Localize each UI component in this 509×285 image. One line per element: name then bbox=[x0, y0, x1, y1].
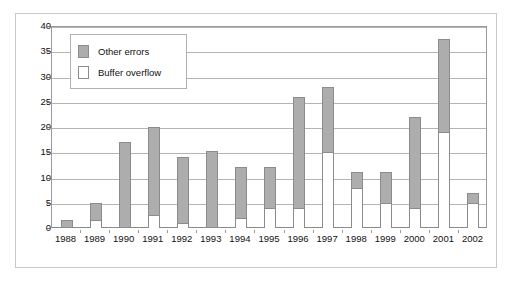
bar-segment-buffer-overflow[interactable] bbox=[380, 203, 392, 228]
bar-segment-buffer-overflow[interactable] bbox=[293, 208, 305, 228]
bar-column[interactable] bbox=[206, 151, 218, 228]
chart-figure: 0510152025303540 19881989199019911992199… bbox=[0, 0, 509, 285]
gray-swatch bbox=[78, 45, 89, 58]
bar-segment-buffer-overflow[interactable] bbox=[90, 220, 102, 228]
bar-column[interactable] bbox=[90, 203, 102, 228]
bar-segment-buffer-overflow[interactable] bbox=[235, 218, 247, 228]
x-tick-label: 2002 bbox=[458, 233, 487, 244]
x-tick-label: 1998 bbox=[342, 233, 371, 244]
x-tick-label: 1991 bbox=[138, 233, 167, 244]
x-tick-label: 1997 bbox=[313, 233, 342, 244]
white-swatch bbox=[78, 66, 89, 79]
x-tick-label: 1996 bbox=[284, 233, 313, 244]
x-tick-label: 2001 bbox=[429, 233, 458, 244]
bar-segment-buffer-overflow[interactable] bbox=[148, 215, 160, 228]
y-axis: 0510152025303540 bbox=[0, 26, 51, 228]
bar-column[interactable] bbox=[264, 167, 276, 228]
bar-segment-other-errors[interactable] bbox=[351, 172, 363, 187]
legend-item[interactable]: Buffer overflow bbox=[78, 62, 179, 83]
legend-label: Other errors bbox=[98, 46, 149, 57]
bar-column[interactable] bbox=[119, 142, 131, 228]
bar-segment-other-errors[interactable] bbox=[438, 39, 450, 132]
bar-segment-other-errors[interactable] bbox=[322, 87, 334, 153]
bar-segment-other-errors[interactable] bbox=[119, 142, 131, 228]
bar-column[interactable] bbox=[177, 157, 189, 228]
x-tick-label: 1989 bbox=[80, 233, 109, 244]
bar-segment-other-errors[interactable] bbox=[380, 172, 392, 202]
bar-column[interactable] bbox=[380, 172, 392, 228]
bar-segment-buffer-overflow[interactable] bbox=[467, 203, 479, 228]
y-tick-label: 25 bbox=[7, 97, 51, 107]
x-tick-label: 1999 bbox=[371, 233, 400, 244]
y-tick-label: 5 bbox=[7, 198, 51, 208]
bar-segment-buffer-overflow[interactable] bbox=[264, 208, 276, 228]
bar-column[interactable] bbox=[148, 127, 160, 228]
bar-column[interactable] bbox=[438, 39, 450, 228]
bar-segment-other-errors[interactable] bbox=[90, 203, 102, 221]
y-tick-label: 0 bbox=[7, 223, 51, 233]
bar-segment-other-errors[interactable] bbox=[467, 193, 479, 203]
bar-segment-other-errors[interactable] bbox=[177, 157, 189, 223]
bar-segment-buffer-overflow[interactable] bbox=[322, 152, 334, 228]
y-tick-mark bbox=[47, 228, 51, 229]
bar-segment-buffer-overflow[interactable] bbox=[438, 132, 450, 228]
x-tick-label: 1992 bbox=[167, 233, 196, 244]
gridline bbox=[52, 103, 486, 104]
y-tick-label: 15 bbox=[7, 147, 51, 157]
x-axis: 1988198919901991199219931994199519961997… bbox=[51, 230, 487, 252]
y-tick-label: 10 bbox=[7, 173, 51, 183]
bar-column[interactable] bbox=[61, 220, 73, 228]
bar-column[interactable] bbox=[467, 193, 479, 228]
bar-segment-buffer-overflow[interactable] bbox=[351, 188, 363, 228]
bar-segment-other-errors[interactable] bbox=[264, 167, 276, 207]
y-tick-label: 40 bbox=[7, 21, 51, 31]
bar-column[interactable] bbox=[322, 87, 334, 228]
bar-column[interactable] bbox=[235, 167, 247, 228]
x-tick-label: 1988 bbox=[51, 233, 80, 244]
bar-column[interactable] bbox=[351, 172, 363, 228]
bar-segment-buffer-overflow[interactable] bbox=[177, 223, 189, 228]
bar-segment-other-errors[interactable] bbox=[61, 220, 73, 228]
bar-column[interactable] bbox=[293, 97, 305, 228]
y-tick-label: 30 bbox=[7, 72, 51, 82]
legend-label: Buffer overflow bbox=[98, 67, 161, 78]
chart-legend: Other errorsBuffer overflow bbox=[70, 34, 187, 89]
x-tick-label: 1995 bbox=[254, 233, 283, 244]
legend-item[interactable]: Other errors bbox=[78, 41, 179, 62]
bar-segment-other-errors[interactable] bbox=[206, 151, 218, 228]
bar-segment-other-errors[interactable] bbox=[148, 127, 160, 215]
bar-segment-other-errors[interactable] bbox=[409, 117, 421, 208]
x-tick-label: 1994 bbox=[225, 233, 254, 244]
bar-column[interactable] bbox=[409, 117, 421, 228]
bar-segment-buffer-overflow[interactable] bbox=[409, 208, 421, 228]
x-tick-label: 2000 bbox=[400, 233, 429, 244]
bar-segment-other-errors[interactable] bbox=[293, 97, 305, 208]
x-tick-label: 1993 bbox=[196, 233, 225, 244]
y-tick-label: 20 bbox=[7, 122, 51, 132]
bar-segment-other-errors[interactable] bbox=[235, 167, 247, 218]
x-tick-label: 1990 bbox=[109, 233, 138, 244]
gridline bbox=[52, 27, 486, 28]
y-tick-label: 35 bbox=[7, 46, 51, 56]
